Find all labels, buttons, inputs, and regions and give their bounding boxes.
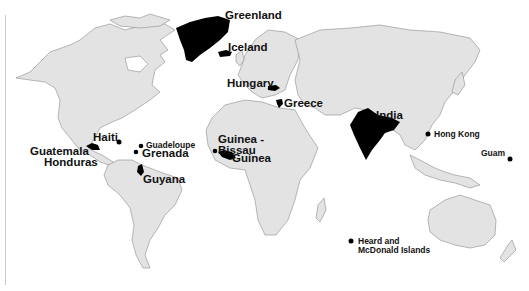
madagascar (316, 198, 326, 222)
label-guam: Guam (481, 149, 505, 158)
new-zealand (500, 240, 516, 262)
heard-mcdonald-dot (349, 239, 354, 244)
label-greece: Greece (284, 98, 323, 109)
label-grenada: Grenada (142, 148, 189, 159)
southeast-asia (410, 155, 480, 188)
label-hungary: Hungary (227, 78, 274, 89)
label-haiti: Haiti (93, 132, 118, 143)
label-guyana: Guyana (143, 174, 185, 185)
greece-shape (276, 99, 283, 108)
label-guinea: Guinea (232, 153, 271, 164)
guam-dot (508, 157, 513, 162)
label-hong-kong: Hong Kong (434, 130, 480, 139)
grenada-dot (134, 150, 139, 155)
label-honduras: Honduras (44, 157, 98, 168)
label-india: India (376, 110, 403, 121)
label-greenland: Greenland (225, 10, 282, 21)
australia-landmass (428, 195, 496, 248)
africa-landmass (206, 100, 318, 235)
label-iceland: Iceland (228, 42, 268, 53)
guinea-bissau-dot (213, 149, 218, 154)
hong-kong-dot (426, 132, 431, 137)
label-heard-line2: McDonald Islands (358, 246, 430, 255)
